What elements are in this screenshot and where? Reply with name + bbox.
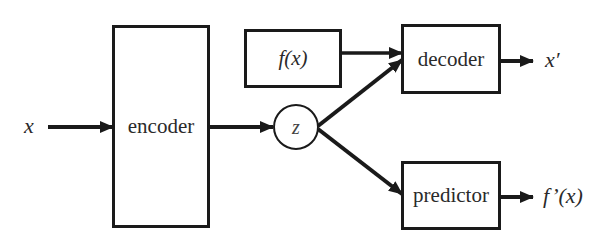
decoder-block: decoder: [401, 24, 501, 94]
decoder-label: decoder: [418, 47, 484, 72]
arrow-z-to-predictor: [318, 129, 402, 194]
encoder-label: encoder: [128, 114, 194, 139]
output-x-prime-label: x′: [545, 49, 560, 71]
fx-block: f(x): [244, 29, 342, 88]
latent-z-node: z: [273, 104, 319, 150]
predictor-label: predictor: [413, 183, 489, 208]
latent-z-label: z: [292, 116, 300, 139]
encoder-block: encoder: [112, 25, 210, 228]
output-f-prime-label: f’(x): [543, 185, 583, 207]
input-x-label: x: [24, 115, 34, 137]
fx-label: f(x): [278, 46, 307, 71]
autoencoder-predictor-diagram: x encoder z f(x) decoder predictor x′ f’…: [0, 0, 611, 241]
predictor-block: predictor: [401, 161, 501, 230]
